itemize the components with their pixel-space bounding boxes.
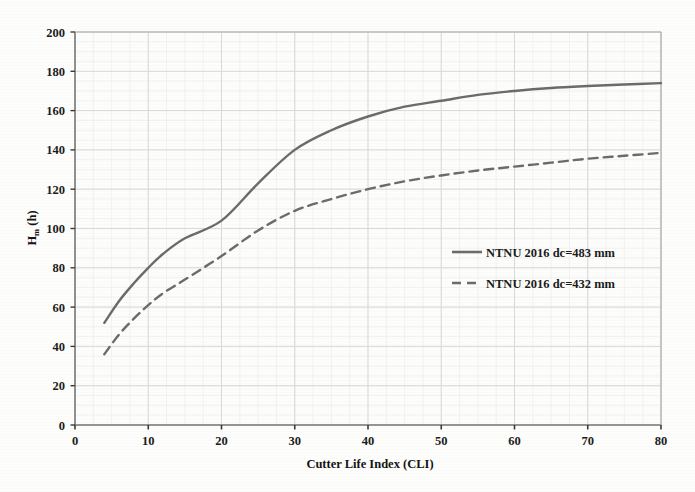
x-tick-label: 20 bbox=[215, 434, 228, 448]
legend-label-2: NTNU 2016 dc=432 mm bbox=[486, 277, 616, 291]
y-tick-label: 80 bbox=[53, 261, 66, 275]
y-tick-label: 160 bbox=[46, 104, 65, 118]
x-tick-label: 50 bbox=[435, 434, 448, 448]
y-axis-title-main: H bbox=[25, 236, 39, 246]
axis-ticks bbox=[71, 32, 662, 430]
x-tick-label: 80 bbox=[655, 434, 668, 448]
y-tick-label: 140 bbox=[46, 143, 65, 157]
legend-item-2: NTNU 2016 dc=432 mm bbox=[452, 277, 616, 291]
y-tick-labels: 020406080100120140160180200 bbox=[46, 26, 65, 433]
legend-label-1: NTNU 2016 dc=483 mm bbox=[486, 246, 616, 260]
x-tick-label: 10 bbox=[142, 434, 155, 448]
y-axis-title-unit: (h) bbox=[25, 210, 39, 228]
x-axis-title: Cutter Life Index (CLI) bbox=[306, 457, 433, 471]
y-tick-label: 20 bbox=[53, 379, 66, 393]
x-tick-labels: 01020304050607080 bbox=[72, 434, 667, 448]
y-tick-label: 40 bbox=[53, 340, 66, 354]
x-tick-label: 40 bbox=[362, 434, 375, 448]
y-tick-label: 120 bbox=[46, 183, 65, 197]
y-axis-title-subscript: m bbox=[31, 229, 41, 236]
figure-canvas: 01020304050607080 0204060801001201401601… bbox=[0, 0, 695, 492]
x-tick-label: 0 bbox=[72, 434, 78, 448]
cutter-life-chart: 01020304050607080 0204060801001201401601… bbox=[0, 0, 695, 492]
y-tick-label: 100 bbox=[46, 222, 65, 236]
y-axis-title: Hm (h) bbox=[25, 210, 41, 245]
y-tick-label: 60 bbox=[53, 301, 66, 315]
x-tick-label: 60 bbox=[508, 434, 521, 448]
svg-text:Hm (h): Hm (h) bbox=[25, 210, 41, 245]
x-tick-label: 70 bbox=[582, 434, 595, 448]
legend-item-1: NTNU 2016 dc=483 mm bbox=[452, 246, 616, 260]
x-tick-label: 30 bbox=[289, 434, 302, 448]
y-tick-label: 200 bbox=[46, 26, 65, 40]
y-tick-label: 0 bbox=[59, 419, 65, 433]
y-tick-label: 180 bbox=[46, 65, 65, 79]
